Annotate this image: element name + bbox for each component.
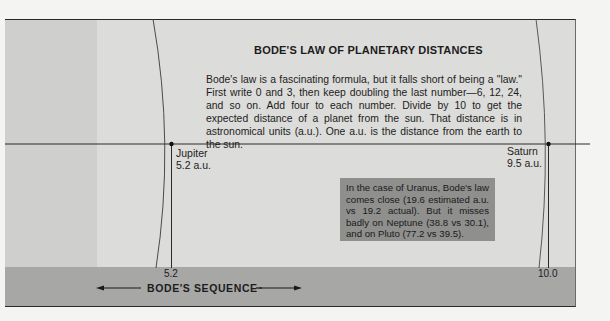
- jupiter-distance: 5.2 a.u.: [176, 159, 211, 171]
- description-text: Bode's law is a fascinating formula, but…: [206, 73, 522, 151]
- saturn-label: Saturn 9.5 a.u.: [507, 145, 542, 169]
- saturn-name: Saturn: [507, 145, 542, 157]
- jupiter-label: Jupiter 5.2 a.u.: [176, 147, 211, 171]
- jupiter-name: Jupiter: [176, 147, 211, 159]
- left-arrow-icon: [96, 286, 104, 291]
- diagram-title: BODE'S LAW OF PLANETARY DISTANCES: [254, 44, 483, 56]
- right-arrow-icon: [294, 286, 302, 291]
- saturn-point: [546, 142, 550, 146]
- uranus-neptune-pluto-callout: In the case of Uranus, Bode's law comes …: [340, 178, 495, 241]
- saturn-bode-value: 10.0: [538, 268, 557, 279]
- jupiter-point: [169, 142, 173, 146]
- saturn-distance: 9.5 a.u.: [507, 157, 542, 169]
- jupiter-bode-value: 5.2: [164, 268, 178, 279]
- bode-sequence-label: BODE'S SEQUENCE: [147, 282, 258, 294]
